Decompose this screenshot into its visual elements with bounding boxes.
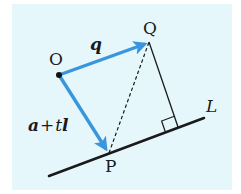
dashed-segment-PQ	[109, 42, 149, 153]
label-vector-q: q	[90, 36, 102, 53]
label-l: l	[62, 115, 68, 135]
label-L: L	[206, 98, 217, 115]
label-plus: +	[40, 115, 54, 135]
vector-q-arrow	[59, 44, 145, 75]
label-Q: Q	[143, 20, 157, 37]
label-a: a	[28, 115, 39, 135]
line-L	[49, 118, 204, 176]
perpendicular-segment	[149, 42, 178, 127]
label-O: O	[49, 51, 63, 68]
vector-diagram	[0, 0, 241, 194]
vector-a-plus-tl-arrow	[59, 75, 106, 149]
point-O-dot	[56, 72, 62, 78]
label-P: P	[105, 158, 116, 175]
label-vector-a-plus-tl: a+tl	[28, 117, 69, 134]
